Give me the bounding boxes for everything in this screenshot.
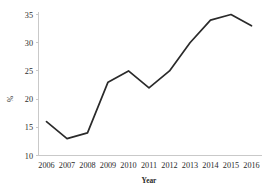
line-chart: 35 30 25 20 15 10 % 2006 2007 2008 2009 … [0,0,269,190]
x-tick-label: 2010 [120,161,136,170]
y-tick-label: 25 [25,67,33,76]
x-tick-label: 2008 [79,161,95,170]
chart-canvas: 35 30 25 20 15 10 % 2006 2007 2008 2009 … [0,0,269,190]
x-tick-label: 2016 [243,161,259,170]
y-tick-label: 30 [25,39,33,48]
x-axis-title: Year [142,176,157,185]
x-tick-label: 2007 [59,161,75,170]
y-tick-label: 35 [25,11,33,20]
x-tick-label: 2009 [100,161,116,170]
x-tick-label: 2013 [182,161,198,170]
x-tick-label: 2011 [141,161,157,170]
x-tick-label: 2006 [38,161,54,170]
y-axis-title: % [6,96,15,102]
data-line-series-percent [47,15,252,139]
y-tick-label: 10 [25,152,33,161]
x-tick-label: 2012 [161,161,177,170]
y-tick-label: 20 [25,95,33,104]
x-tick-label: 2015 [223,161,239,170]
y-tick-label: 15 [25,123,33,132]
x-tick-label: 2014 [202,161,218,170]
